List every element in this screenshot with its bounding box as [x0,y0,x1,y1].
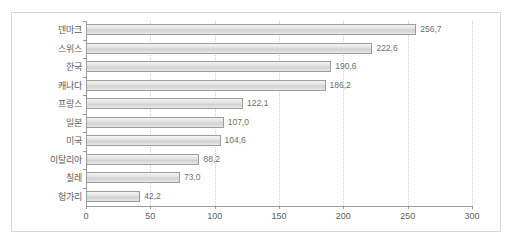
bar[interactable] [86,117,224,128]
category-axis-labels: 덴마크스위스한국캐나다프랑스일본미국이탈리아칠레헝가리 [12,21,82,206]
x-axis-tick-label: 50 [145,211,155,221]
bar[interactable] [86,135,221,146]
category-label: 프랑스 [12,95,82,114]
bar-value-label: 190,6 [335,59,356,74]
bar-row: 222,6 [86,40,472,59]
bar-row: 186,2 [86,77,472,96]
x-axis-tick [215,206,216,209]
x-axis-tick [343,206,344,209]
bar-row: 73,0 [86,169,472,188]
x-axis-tick [86,206,87,209]
bar-rows: 256,7222,6190,6186,2122,1107,0104,688,27… [86,21,472,206]
y-axis-tick [83,188,86,189]
bar-value-label: 104,6 [225,133,246,148]
x-axis-tick-label: 250 [400,211,415,221]
bar[interactable] [86,80,326,91]
bar-value-label: 73,0 [184,170,201,185]
bar-value-label: 122,1 [247,96,268,111]
category-label: 한국 [12,58,82,77]
bar[interactable] [86,191,140,202]
plot-area: 256,7222,6190,6186,2122,1107,0104,688,27… [86,21,472,206]
y-axis-tick [83,95,86,96]
bar[interactable] [86,154,199,165]
gridline-300 [472,21,473,206]
x-axis-tick [408,206,409,209]
bar-row: 256,7 [86,21,472,40]
bar-value-label: 186,2 [330,78,351,93]
bar[interactable] [86,24,416,35]
bar-row: 190,6 [86,58,472,77]
bar-value-label: 107,0 [228,115,249,130]
x-axis-tick [150,206,151,209]
y-axis-tick [83,114,86,115]
category-label: 일본 [12,114,82,133]
x-axis-tick-label: 300 [464,211,479,221]
bar[interactable] [86,172,180,183]
bar-row: 107,0 [86,114,472,133]
bar-row: 104,6 [86,132,472,151]
bar-value-label: 222,6 [376,41,397,56]
header-strip [0,0,513,9]
category-label: 미국 [12,132,82,151]
x-axis-tick-label: 150 [271,211,286,221]
x-axis-tick [472,206,473,209]
bar[interactable] [86,61,331,72]
x-axis-tick-label: 200 [336,211,351,221]
y-axis-tick [83,169,86,170]
bar-row: 88,2 [86,151,472,170]
bar-row: 42,2 [86,188,472,207]
y-axis-tick [83,21,86,22]
category-label: 이탈리아 [12,151,82,170]
bar-row: 122,1 [86,95,472,114]
category-label: 헝가리 [12,188,82,207]
category-label: 캐나다 [12,77,82,96]
chart-figure-frame: 덴마크스위스한국캐나다프랑스일본미국이탈리아칠레헝가리 256,7222,619… [11,12,501,232]
category-label: 스위스 [12,40,82,59]
y-axis-tick [83,77,86,78]
y-axis-tick [83,132,86,133]
bar[interactable] [86,98,243,109]
category-label: 덴마크 [12,21,82,40]
bar[interactable] [86,43,372,54]
x-axis-tick-label: 0 [83,211,88,221]
y-axis-tick [83,151,86,152]
x-axis-tick [279,206,280,209]
bar-value-label: 88,2 [203,152,220,167]
x-axis-tick-label: 100 [207,211,222,221]
bar-value-label: 42,2 [144,189,161,204]
y-axis-tick [83,58,86,59]
bar-value-label: 256,7 [420,22,441,37]
category-label: 칠레 [12,169,82,188]
y-axis-tick [83,40,86,41]
